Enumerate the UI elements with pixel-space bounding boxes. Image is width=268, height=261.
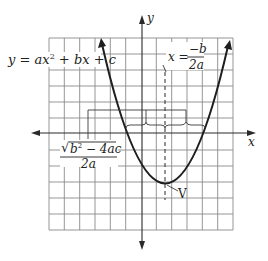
left-half-brace <box>126 122 165 128</box>
svg-text:x =: x = <box>168 50 189 64</box>
label-connector <box>88 110 146 139</box>
parabola-curve <box>102 44 228 184</box>
vertex-leader-line <box>167 185 178 191</box>
svg-text:√: √ <box>61 140 70 155</box>
y-axis-down-arrow-icon <box>139 241 145 250</box>
curve-right-arrow-icon <box>224 40 232 50</box>
x-axis-left-arrow-icon <box>31 130 40 136</box>
vertex-label: V <box>177 187 187 201</box>
x-axis-label: x <box>248 135 255 149</box>
svg-text:2a: 2a <box>188 58 204 72</box>
y-axis-label: y <box>146 11 154 25</box>
svg-text:2a: 2a <box>80 157 96 171</box>
svg-text:−b: −b <box>189 42 207 56</box>
right-half-brace <box>165 122 205 128</box>
equation-label: y = ax2 + bx + c <box>7 52 117 67</box>
svg-text:y = ax2 + bx + c: y = ax2 + bx + c <box>7 52 117 67</box>
curve-left-arrow-icon <box>98 38 106 48</box>
y-axis-up-arrow-icon <box>139 15 145 24</box>
brace-connector <box>146 110 186 122</box>
half-width-label: √ b2 − 4ac 2a <box>60 140 122 171</box>
parabola-diagram: y = ax2 + bx + c y x x = −b 2a √ b2 − 4a… <box>0 0 268 261</box>
symmetry-leader-line <box>163 65 166 72</box>
symmetry-label: x = −b 2a <box>166 42 207 72</box>
